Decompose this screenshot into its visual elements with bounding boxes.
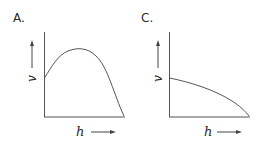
panel-a-y-label: v	[25, 75, 39, 82]
panel-a: A. v h	[13, 11, 125, 139]
panel-a-x-label: h	[76, 124, 84, 139]
panel-c-x-arrowhead-icon	[236, 130, 242, 134]
panel-a-y-arrowhead-icon	[30, 40, 34, 46]
diagram-canvas: A. v h C. v h	[0, 0, 258, 144]
panel-a-curve	[45, 49, 125, 116]
panel-c-y-arrowhead-icon	[156, 40, 160, 46]
panel-c-label: C.	[141, 11, 153, 25]
panel-a-label: A.	[13, 11, 25, 25]
panel-c-x-label: h	[204, 124, 212, 139]
panel-a-x-arrowhead-icon	[110, 130, 116, 134]
panel-c: C. v h	[141, 11, 250, 139]
panel-c-y-label: v	[151, 75, 165, 82]
panel-c-curve	[170, 78, 250, 116]
